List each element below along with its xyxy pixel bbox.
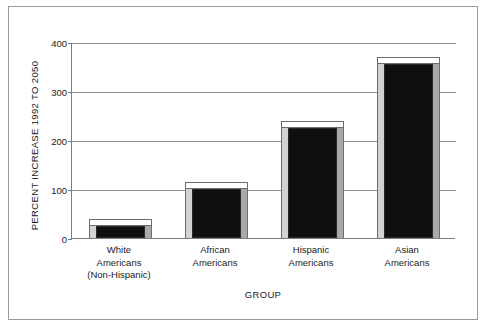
bar-left-face [281,128,288,238]
bar-top-face [89,219,152,226]
x-category-label-line: (Non-Hispanic) [71,269,167,282]
gridline [72,43,456,44]
x-category-label: AsianAmericans [359,244,455,269]
bar [281,121,344,238]
y-tick-label: 400 [51,38,67,49]
y-tick-mark [68,239,72,240]
y-tick-label: 0 [62,234,67,245]
y-tick-label: 200 [51,136,67,147]
x-category-label-line: African [167,244,263,257]
x-category-label-line: Americans [71,257,167,270]
bar [89,219,152,238]
x-category-label-line: Americans [167,257,263,270]
y-axis-title: PERCENT INCREASE 1992 TO 2050 [29,46,40,246]
y-tick-mark [68,43,72,44]
bar-right-face [145,226,152,238]
bar-left-face [89,226,96,238]
bar-front-face [192,189,241,238]
y-tick-mark [68,190,72,191]
plot-area: 0100200300400 [71,43,455,239]
bar-front-face [288,128,337,238]
x-axis-title: GROUP [71,289,455,300]
x-category-label-line: White [71,244,167,257]
bar-right-face [433,64,440,238]
bar-top-face [377,57,440,64]
bar [377,57,440,238]
bar-top-face [281,121,344,128]
bar-right-face [241,189,248,238]
y-tick-mark [68,92,72,93]
bar-left-face [185,189,192,238]
y-tick-mark [68,141,72,142]
x-category-label-line: Asian [359,244,455,257]
bar-front-face [96,226,145,238]
x-category-label: HispanicAmericans [263,244,359,269]
bar [185,182,248,238]
bar-top-face [185,182,248,189]
bar-left-face [377,64,384,238]
x-category-label-line: Americans [359,257,455,270]
x-category-label: AfricanAmericans [167,244,263,269]
y-tick-label: 300 [51,87,67,98]
y-tick-label: 100 [51,185,67,196]
bar-right-face [337,128,344,238]
x-category-label: WhiteAmericans(Non-Hispanic) [71,244,167,282]
bar-front-face [384,64,433,238]
x-category-label-line: Hispanic [263,244,359,257]
x-category-label-line: Americans [263,257,359,270]
chart-figure: PERCENT INCREASE 1992 TO 2050 0100200300… [0,0,486,328]
